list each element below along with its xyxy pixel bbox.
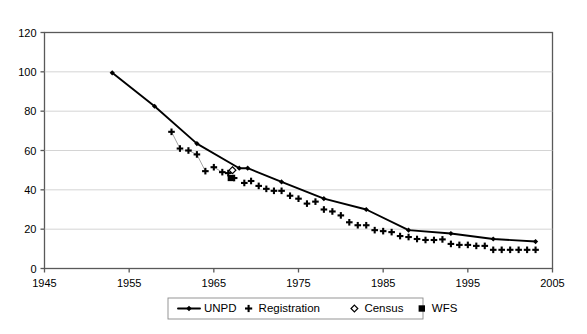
chart-legend: UNPDRegistrationCensusWFS — [168, 298, 458, 319]
legend-label: WFS — [432, 302, 458, 314]
chart-container: 020406080100120 194519551965197519851995… — [0, 0, 587, 334]
series-wfs — [228, 175, 234, 181]
y-tick-label: 100 — [18, 66, 36, 78]
x-tick-label: 2005 — [540, 277, 564, 289]
y-tick-label: 40 — [24, 184, 36, 196]
x-tick-label: 1975 — [286, 277, 310, 289]
x-tick-label: 1945 — [32, 277, 56, 289]
x-tick-label: 1965 — [202, 277, 226, 289]
y-tick-label: 80 — [24, 105, 36, 117]
legend-filled-square-icon — [419, 305, 425, 311]
line-chart: 020406080100120 194519551965197519851995… — [0, 0, 587, 334]
y-tick-label: 120 — [18, 27, 36, 39]
x-tick-label: 1985 — [371, 277, 395, 289]
wfs-point-marker — [228, 175, 234, 181]
x-tick-label: 1955 — [117, 277, 141, 289]
legend-item-wfs[interactable]: WFS — [419, 302, 458, 314]
legend-label: Census — [364, 302, 403, 314]
y-axis: 020406080100120 — [18, 27, 44, 275]
y-tick-label: 20 — [24, 223, 36, 235]
x-axis: 1945195519651975198519952005 — [32, 269, 564, 289]
legend-label: UNPD — [204, 302, 237, 314]
legend-label: Registration — [259, 302, 320, 314]
y-tick-label: 60 — [24, 145, 36, 157]
x-tick-label: 1995 — [456, 277, 480, 289]
y-tick-label: 0 — [30, 263, 36, 275]
